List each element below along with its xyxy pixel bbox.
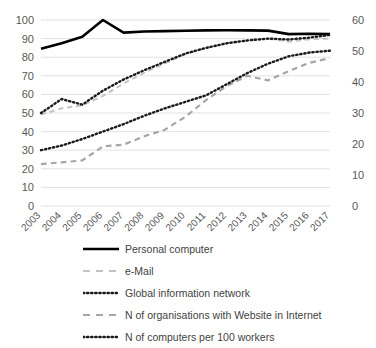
x-axis-tick-label: 2013	[225, 209, 249, 233]
right-axis-tick-label: 0	[352, 200, 358, 212]
right-axis-tick-label: 60	[352, 14, 364, 26]
gridlines	[41, 20, 330, 206]
x-axis-tick-label: 2005	[60, 209, 84, 233]
left-axis-labels: 0102030405060708090100	[16, 14, 34, 212]
dotted-line-swatch	[83, 331, 119, 343]
x-axis-tick-label: 2015	[267, 209, 291, 233]
x-axis-tick-label: 2007	[101, 209, 125, 233]
right-axis-tick-label: 20	[352, 138, 364, 150]
x-axis-tick-label: 2006	[81, 209, 105, 233]
x-axis-tick-label: 2012	[205, 209, 229, 233]
left-axis-tick-label: 80	[22, 51, 34, 63]
x-axis-tick-label: 2016	[287, 209, 311, 233]
x-axis-tick-label: 2009	[143, 209, 167, 233]
x-axis-tick-label: 2004	[40, 209, 64, 233]
x-axis-tick-label: 2014	[246, 209, 270, 233]
solid-line-swatch	[83, 243, 119, 255]
x-axis-tick-label: 2010	[163, 209, 187, 233]
chart-figure: 0102030405060708090100010203040506020032…	[0, 0, 376, 348]
series-line-n-of-organisations-with-website-in-internet	[41, 58, 330, 164]
legend-item[interactable]: Personal computer	[0, 238, 376, 260]
plot-area: 0102030405060708090100010203040506020032…	[0, 0, 376, 240]
legend-item[interactable]: e-Mail	[0, 260, 376, 282]
dotted-line-swatch	[83, 287, 119, 299]
legend-item-label: Personal computer	[125, 243, 213, 255]
left-axis-tick-label: 70	[22, 70, 34, 82]
chart-canvas: 0102030405060708090100010203040506020032…	[0, 0, 376, 240]
left-axis-tick-label: 50	[22, 107, 34, 119]
x-axis-tick-label: 2008	[122, 209, 146, 233]
right-axis-tick-label: 50	[352, 45, 364, 57]
right-axis-tick-label: 30	[352, 107, 364, 119]
left-axis-tick-label: 40	[22, 126, 34, 138]
legend-item-label: N of organisations with Website in Inter…	[125, 309, 322, 321]
left-axis-tick-label: 60	[22, 88, 34, 100]
right-axis-labels: 0102030405060	[352, 14, 364, 212]
x-axis-tick-label: 2017	[308, 209, 332, 233]
x-axis-tick-label: 2003	[19, 209, 43, 233]
legend-item-label: e-Mail	[125, 265, 154, 277]
legend-item[interactable]: N of organisations with Website in Inter…	[0, 304, 376, 326]
left-axis-tick-label: 100	[16, 14, 34, 26]
series-line-n-of-computers-per-100-workers	[41, 51, 330, 151]
legend-item-label: N of computers per 100 workers	[125, 331, 274, 343]
x-axis-labels: 2003200420052006200720082009201020112012…	[19, 209, 332, 233]
dashed-gray-line-swatch	[83, 309, 119, 321]
right-axis-tick-label: 10	[352, 169, 364, 181]
legend-item[interactable]: Global information network	[0, 282, 376, 304]
series-layer	[41, 20, 330, 164]
legend-item[interactable]: N of computers per 100 workers	[0, 326, 376, 348]
series-line-personal-computer	[41, 20, 330, 49]
right-axis-tick-label: 40	[352, 76, 364, 88]
left-axis-tick-label: 90	[22, 33, 34, 45]
left-axis-tick-label: 20	[22, 163, 34, 175]
left-axis-tick-label: 10	[22, 181, 34, 193]
x-axis-tick-label: 2011	[185, 209, 208, 232]
chart-legend: Personal computere-MailGlobal informatio…	[0, 238, 376, 348]
left-axis-tick-label: 30	[22, 144, 34, 156]
legend-item-label: Global information network	[125, 287, 250, 299]
dashed-light-line-swatch	[83, 265, 119, 277]
